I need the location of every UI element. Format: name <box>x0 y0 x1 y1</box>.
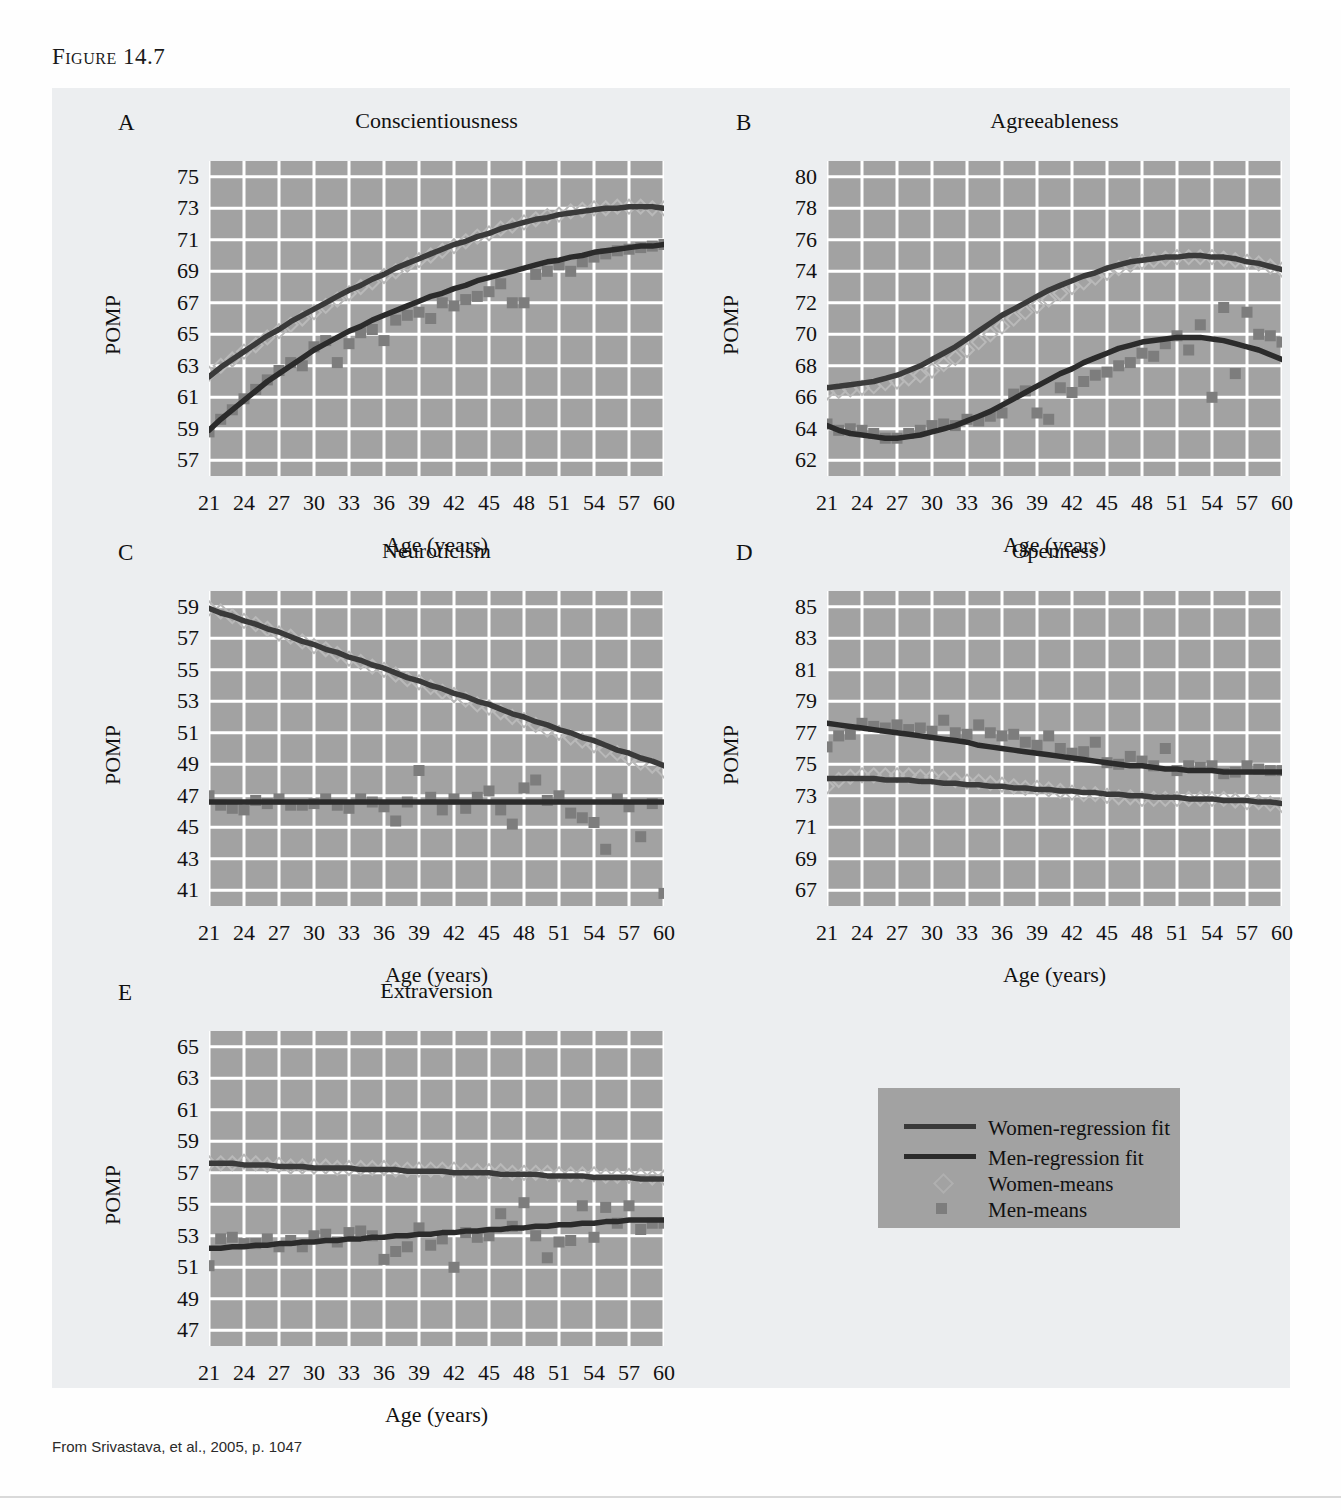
x-tick-label: 30 <box>303 490 325 516</box>
y-tick-label: 55 <box>94 657 199 683</box>
x-tick-label: 51 <box>548 1360 570 1386</box>
x-tick-label: 24 <box>233 920 255 946</box>
panel-title-b: Agreeableness <box>827 108 1282 134</box>
figure-page: Figure 14.7 AConscientiousnessPOMP575961… <box>0 0 1341 1510</box>
plot-area-c <box>209 591 664 906</box>
x-tick-label: 60 <box>653 490 675 516</box>
legend-swatch-square <box>936 1203 947 1214</box>
x-tick-label: 42 <box>443 1360 465 1386</box>
y-tick-label: 59 <box>94 594 199 620</box>
plot-area-b <box>827 161 1282 476</box>
figure-source-caption: From Srivastava, et al., 2005, p. 1047 <box>52 1438 302 1455</box>
panel-letter-c: C <box>118 540 133 566</box>
y-tick-label: 66 <box>712 384 817 410</box>
y-tick-label: 62 <box>712 447 817 473</box>
x-tick-label: 27 <box>268 1360 290 1386</box>
x-tick-label: 30 <box>921 490 943 516</box>
x-axis-label-e: Age (years) <box>209 1402 664 1428</box>
legend-swatch-diamond <box>933 1173 954 1194</box>
panel-letter-e: E <box>118 980 132 1006</box>
y-tick-label: 63 <box>94 1065 199 1091</box>
y-tick-label: 64 <box>712 416 817 442</box>
y-tick-label: 45 <box>94 814 199 840</box>
x-tick-label: 30 <box>303 1360 325 1386</box>
x-tick-label: 39 <box>408 490 430 516</box>
x-tick-label: 45 <box>478 490 500 516</box>
y-tick-label: 53 <box>94 688 199 714</box>
x-tick-label: 36 <box>373 1360 395 1386</box>
y-tick-label: 78 <box>712 195 817 221</box>
y-tick-label: 49 <box>94 1286 199 1312</box>
panel-letter-b: B <box>736 110 751 136</box>
figure-label: Figure 14.7 <box>52 44 165 70</box>
y-tick-label: 59 <box>94 416 199 442</box>
y-tick-label: 72 <box>712 290 817 316</box>
x-tick-label: 57 <box>1236 490 1258 516</box>
chart-legend: Women-regression fitMen-regression fitWo… <box>878 1088 1180 1228</box>
x-tick-label: 45 <box>478 920 500 946</box>
x-tick-label: 27 <box>268 920 290 946</box>
x-tick-label: 39 <box>1026 490 1048 516</box>
x-tick-label: 48 <box>513 490 535 516</box>
panel-letter-a: A <box>118 110 135 136</box>
y-tick-label: 57 <box>94 625 199 651</box>
x-tick-label: 54 <box>583 1360 605 1386</box>
panel-title-d: Openness <box>827 538 1282 564</box>
y-tick-label: 57 <box>94 447 199 473</box>
x-tick-label: 33 <box>338 920 360 946</box>
x-tick-label: 33 <box>338 490 360 516</box>
y-tick-label: 65 <box>94 321 199 347</box>
x-tick-label: 21 <box>198 920 220 946</box>
x-tick-label: 42 <box>443 490 465 516</box>
y-tick-label: 51 <box>94 720 199 746</box>
y-tick-label: 43 <box>94 846 199 872</box>
y-tick-label: 53 <box>94 1223 199 1249</box>
x-tick-label: 57 <box>618 1360 640 1386</box>
y-tick-label: 81 <box>712 657 817 683</box>
y-tick-label: 69 <box>712 846 817 872</box>
y-tick-label: 73 <box>94 195 199 221</box>
y-tick-label: 70 <box>712 321 817 347</box>
panel-title-c: Neuroticism <box>209 538 664 564</box>
x-tick-label: 48 <box>1131 920 1153 946</box>
x-tick-label: 39 <box>1026 920 1048 946</box>
y-tick-label: 85 <box>712 594 817 620</box>
x-tick-label: 54 <box>1201 490 1223 516</box>
panel-title-e: Extraversion <box>209 978 664 1004</box>
legend-label: Women-regression fit <box>988 1116 1170 1141</box>
x-tick-label: 21 <box>816 920 838 946</box>
x-tick-label: 21 <box>198 1360 220 1386</box>
x-tick-label: 60 <box>653 920 675 946</box>
y-tick-label: 77 <box>712 720 817 746</box>
x-tick-label: 27 <box>268 490 290 516</box>
y-tick-label: 57 <box>94 1160 199 1186</box>
x-tick-label: 48 <box>1131 490 1153 516</box>
y-tick-label: 68 <box>712 353 817 379</box>
y-tick-label: 61 <box>94 384 199 410</box>
y-tick-label: 41 <box>94 877 199 903</box>
x-tick-label: 54 <box>583 920 605 946</box>
x-tick-label: 21 <box>816 490 838 516</box>
x-tick-label: 21 <box>198 490 220 516</box>
panel-letter-d: D <box>736 540 753 566</box>
y-tick-label: 83 <box>712 625 817 651</box>
x-tick-label: 60 <box>1271 920 1293 946</box>
x-tick-label: 24 <box>851 920 873 946</box>
x-tick-label: 27 <box>886 490 908 516</box>
x-tick-label: 27 <box>886 920 908 946</box>
y-tick-label: 59 <box>94 1128 199 1154</box>
plot-area-d <box>827 591 1282 906</box>
x-tick-label: 33 <box>338 1360 360 1386</box>
x-tick-label: 36 <box>991 490 1013 516</box>
plot-area-e <box>209 1031 664 1346</box>
y-tick-label: 51 <box>94 1254 199 1280</box>
panel-a: AConscientiousnessPOMP575961636567697173… <box>94 106 684 586</box>
x-tick-label: 33 <box>956 490 978 516</box>
panel-b: BAgreeablenessPOMP6264666870727476788021… <box>712 106 1302 586</box>
top-divider <box>0 0 1341 10</box>
x-tick-label: 42 <box>443 920 465 946</box>
x-tick-label: 54 <box>583 490 605 516</box>
x-tick-label: 51 <box>548 920 570 946</box>
y-tick-label: 75 <box>94 164 199 190</box>
x-tick-label: 57 <box>618 490 640 516</box>
